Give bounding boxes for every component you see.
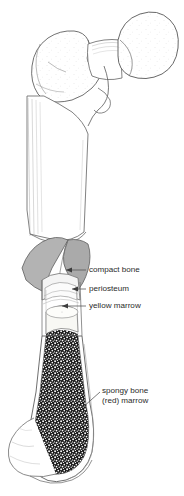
- label-yellow-marrow: yellow marrow: [89, 301, 141, 310]
- spongy-bone-group: [8, 330, 93, 483]
- yellow-marrow-group: [46, 305, 78, 334]
- femur-illustration: compact bone periosteum yellow marrow sp…: [0, 0, 184, 496]
- label-periosteum: periosteum: [89, 284, 129, 293]
- femur-anatomy-figure: compact bone periosteum yellow marrow sp…: [0, 0, 184, 496]
- compact-bone-ring-line-4: [43, 299, 79, 304]
- compact-bone-inner-ring: [45, 282, 77, 300]
- labels-group: compact bone periosteum yellow marrow sp…: [89, 265, 149, 405]
- compact-bone-wall-right: [80, 282, 82, 336]
- femur-shaft-group: [27, 96, 88, 243]
- femoral-head: [118, 12, 178, 79]
- yellow-marrow-speck: [61, 311, 62, 312]
- label-compact-bone: compact bone: [89, 265, 140, 274]
- label-spongy-bone-line1: spongy bone: [102, 386, 149, 395]
- label-spongy-bone-line2: (red) marrow: [102, 396, 148, 405]
